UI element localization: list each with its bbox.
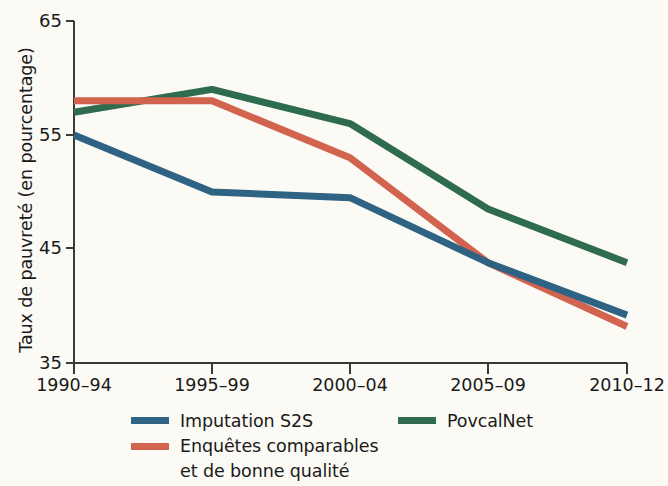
- x-tick-label-1990-94: 1990–94: [14, 375, 134, 395]
- y-axis-tick-labels: 65 55 45 35: [18, 0, 62, 486]
- x-tick-label-1995-99: 1995–99: [152, 375, 272, 395]
- x-tick-label-2005-09: 2005–09: [428, 375, 548, 395]
- y-tick-label-55: 55: [22, 124, 62, 145]
- y-tick-label-35: 35: [22, 352, 62, 373]
- series-line-enquetes-comparables: [74, 101, 627, 327]
- y-tick-label-65: 65: [22, 10, 62, 31]
- y-tick-label-45: 45: [22, 237, 62, 258]
- x-tick-label-2000-04: 2000–04: [290, 375, 410, 395]
- series-line-povcalnet: [74, 89, 627, 262]
- x-tick-label-2010-12: 2010–12: [567, 375, 668, 395]
